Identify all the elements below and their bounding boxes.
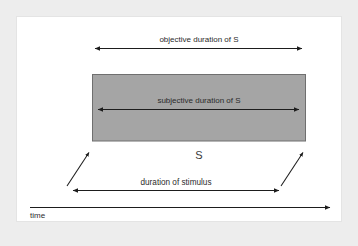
stimulus-block bbox=[93, 75, 306, 142]
timing-diagram: objective duration of S subjective durat… bbox=[0, 0, 358, 246]
time-axis-label: time bbox=[30, 211, 46, 220]
subjective-duration-label: subjective duration of S bbox=[157, 96, 240, 105]
figure-root: objective duration of S subjective durat… bbox=[0, 0, 358, 246]
stimulus-offset-pointer-arrow bbox=[281, 153, 303, 187]
stimulus-symbol-label: S bbox=[195, 149, 202, 161]
objective-duration-label: objective duration of S bbox=[159, 35, 238, 44]
duration-of-stimulus-label: duration of stimulus bbox=[141, 178, 212, 187]
stimulus-onset-pointer-arrow bbox=[67, 153, 89, 187]
